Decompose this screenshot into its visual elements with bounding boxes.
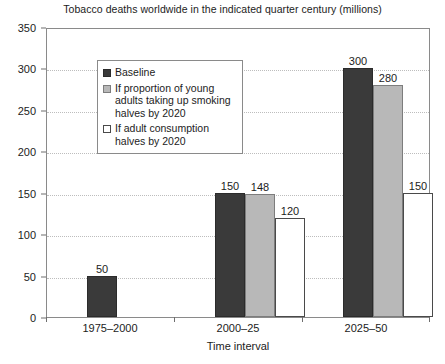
bar: [245, 194, 275, 317]
y-tick-label: 200: [18, 146, 36, 158]
x-tick-mark: [46, 317, 47, 322]
y-tick-label: 50: [24, 271, 36, 283]
plot-area: 50150148120300280150 BaselineIf proporti…: [46, 28, 430, 318]
bar-value-label: 120: [281, 205, 299, 217]
bar: [403, 193, 433, 317]
bar: [87, 276, 117, 317]
legend-swatch-icon: [103, 125, 111, 133]
chart-title: Tobacco deaths worldwide in the indicate…: [0, 3, 445, 15]
bar-chart-figure: Tobacco deaths worldwide in the indicate…: [0, 0, 445, 364]
bar: [343, 68, 373, 317]
legend-item[interactable]: Baseline: [103, 66, 237, 79]
legend-item[interactable]: If proportion of young adults taking up …: [103, 82, 237, 120]
bar-value-label: 280: [379, 72, 397, 84]
chart-legend: BaselineIf proportion of young adults ta…: [97, 60, 243, 154]
y-tick-label: 150: [18, 188, 36, 200]
legend-label: Baseline: [115, 66, 155, 79]
y-tick-label: 0: [30, 312, 36, 324]
x-tick-label: 1975–2000: [82, 322, 137, 334]
legend-swatch-icon: [103, 69, 111, 77]
x-tick-mark: [429, 317, 430, 322]
y-tick-label: 350: [18, 22, 36, 34]
bar: [215, 193, 245, 317]
x-axis-title: Time interval: [46, 340, 430, 352]
legend-item[interactable]: If adult consumption halves by 2020: [103, 122, 237, 147]
legend-swatch-icon: [103, 85, 111, 93]
y-tick-label: 250: [18, 105, 36, 117]
x-tick-label: 2025–50: [345, 322, 388, 334]
x-tick-mark: [302, 317, 303, 322]
y-tick-label: 300: [18, 63, 36, 75]
x-tick-mark: [174, 317, 175, 322]
bar-value-label: 50: [96, 263, 108, 275]
x-tick-label: 2000–25: [217, 322, 260, 334]
bar-value-label: 148: [251, 181, 269, 193]
x-axis: 1975–20002000–252025–50: [46, 322, 430, 342]
legend-label: If proportion of young adults taking up …: [115, 82, 237, 120]
bar: [275, 218, 305, 317]
y-axis: 050100150200250300350: [0, 28, 46, 318]
bar-value-label: 150: [409, 180, 427, 192]
legend-label: If adult consumption halves by 2020: [115, 122, 237, 147]
bar: [373, 85, 403, 317]
y-tick-label: 100: [18, 229, 36, 241]
bar-value-label: 150: [221, 180, 239, 192]
bar-value-label: 300: [349, 55, 367, 67]
